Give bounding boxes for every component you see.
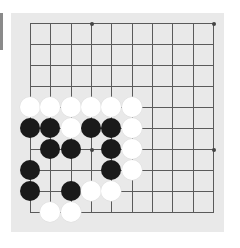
black-stone[interactable]: [101, 160, 121, 180]
white-stone[interactable]: [20, 97, 40, 117]
star-point: [212, 148, 216, 152]
black-stone[interactable]: [40, 118, 60, 138]
black-stone[interactable]: [61, 139, 81, 159]
black-stone[interactable]: [61, 181, 81, 201]
grid-line-vertical: [152, 23, 153, 213]
white-stone[interactable]: [122, 118, 142, 138]
white-stone[interactable]: [61, 202, 81, 222]
white-stone[interactable]: [40, 202, 60, 222]
black-stone[interactable]: [81, 118, 101, 138]
white-stone[interactable]: [40, 97, 60, 117]
star-point: [90, 148, 94, 152]
grid-line-horizontal: [30, 65, 214, 66]
white-stone[interactable]: [122, 160, 142, 180]
grid-line-horizontal: [30, 86, 214, 87]
white-stone[interactable]: [81, 181, 101, 201]
side-bar: [0, 13, 3, 50]
white-stone[interactable]: [101, 97, 121, 117]
black-stone[interactable]: [20, 118, 40, 138]
grid-line-vertical: [193, 23, 194, 213]
white-stone[interactable]: [101, 181, 121, 201]
star-point: [212, 22, 216, 26]
grid-line-horizontal: [30, 44, 214, 45]
black-stone[interactable]: [20, 160, 40, 180]
white-stone[interactable]: [61, 118, 81, 138]
white-stone[interactable]: [81, 97, 101, 117]
black-stone[interactable]: [101, 139, 121, 159]
grid-line-horizontal: [30, 191, 214, 192]
grid-line-vertical: [172, 23, 173, 213]
black-stone[interactable]: [40, 139, 60, 159]
black-stone[interactable]: [20, 181, 40, 201]
grid-line-horizontal: [30, 23, 214, 24]
black-stone[interactable]: [101, 118, 121, 138]
star-point: [90, 22, 94, 26]
white-stone[interactable]: [122, 97, 142, 117]
grid-line-vertical: [213, 23, 214, 213]
white-stone[interactable]: [61, 97, 81, 117]
white-stone[interactable]: [122, 139, 142, 159]
